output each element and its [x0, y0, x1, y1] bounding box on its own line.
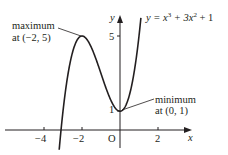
tick-label-x-neg2: −2 — [73, 133, 84, 144]
y-axis-arrow-icon — [117, 15, 123, 23]
tick-label-x-2: 2 — [155, 133, 160, 144]
equation-label: y = x3 + 3x2 + 1 — [146, 12, 213, 23]
maximum-leader-line — [58, 28, 81, 36]
x-axis-label: x — [188, 132, 193, 143]
equation-prefix: y = x — [146, 12, 168, 23]
maximum-label-line2: at (−2, 5) — [12, 32, 51, 43]
tick-label-y-1: 1 — [109, 104, 114, 115]
equation-suffix: + 1 — [197, 12, 213, 23]
origin-label: O — [108, 133, 116, 144]
tick-label-x-neg4: −4 — [35, 133, 46, 144]
minimum-label-line1: minimum — [155, 94, 196, 105]
equation-mid: + 3x — [171, 12, 193, 23]
tick-label-y-5: 5 — [109, 31, 114, 42]
y-axis-label: y — [110, 12, 115, 23]
minimum-label-line2: at (0, 1) — [155, 105, 188, 116]
maximum-label-line1: maximum — [12, 20, 55, 31]
